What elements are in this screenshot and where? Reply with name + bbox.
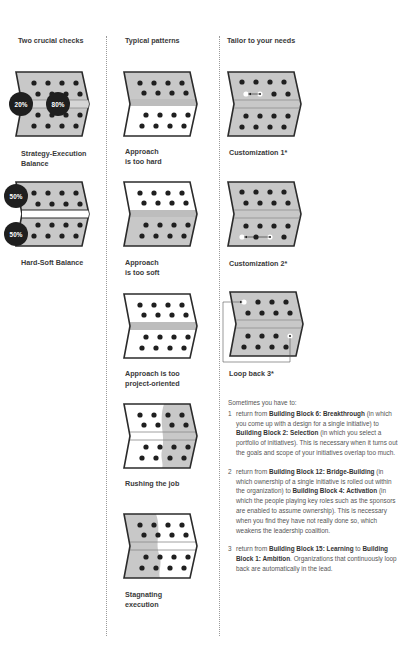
- notes-intro: Sometimes you have to:: [228, 398, 398, 408]
- badge-hard-percent: 50%: [4, 184, 28, 208]
- approach-project-oriented-diagram: [122, 292, 202, 362]
- caption-loop-back: Loop back 3*: [229, 369, 274, 379]
- column-title-patterns: Typical patterns: [125, 36, 180, 45]
- badge-strategy-percent: 20%: [9, 92, 33, 116]
- column-title-checks: Two crucial checks: [18, 36, 83, 45]
- column-divider-2: [219, 36, 220, 636]
- caption-hard-soft: Hard-Soft Balance: [21, 258, 83, 268]
- stagnating-execution-diagram: [122, 512, 202, 582]
- column-divider-1: [106, 36, 107, 636]
- notes-section: Sometimes you have to: 1 return from Bui…: [228, 398, 398, 583]
- column-title-tailor: Tailor to your needs: [227, 36, 295, 45]
- customization-1-diagram: [226, 70, 306, 140]
- caption-rushing-the-job: Rushing the job: [125, 479, 179, 489]
- caption-strategy-execution: Strategy-Execution Balance: [21, 149, 87, 168]
- caption-approach-too-hard: Approach is too hard: [125, 147, 162, 166]
- note-item-2: 2 return from Building Block 12: Bridge-…: [228, 467, 398, 536]
- approach-too-hard-diagram: [122, 70, 202, 140]
- note-item-1: 1 return from Building Block 6: Breakthr…: [228, 409, 398, 458]
- rushing-the-job-diagram: [122, 402, 202, 472]
- badge-execution-percent: 80%: [46, 92, 70, 116]
- note-item-3: 3 return from Building Block 15: Learnin…: [228, 544, 398, 573]
- approach-too-soft-diagram: [122, 180, 202, 250]
- loop-back-diagram: [222, 290, 308, 370]
- caption-approach-too-soft: Approach is too soft: [125, 258, 159, 277]
- caption-customization-2: Customization 2*: [229, 259, 287, 269]
- badge-soft-percent: 50%: [4, 222, 28, 246]
- caption-stagnating-execution: Stagnating execution: [125, 590, 162, 609]
- caption-customization-1: Customization 1*: [229, 148, 287, 158]
- caption-approach-project-oriented: Approach is too project-oriented: [125, 369, 180, 388]
- customization-2-diagram: [226, 180, 306, 250]
